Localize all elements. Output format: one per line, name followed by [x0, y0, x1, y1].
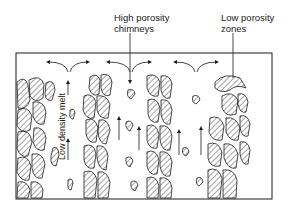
grain-column-1: [17, 78, 59, 198]
grain-column-4: [208, 76, 250, 198]
label-low-porosity-line1: Low porosity: [221, 12, 274, 23]
label-high-porosity-line2: chimneys: [114, 23, 169, 34]
grain-column-3: [147, 75, 172, 198]
grain-column-2: [83, 74, 112, 198]
label-low-porosity-line2: zones: [221, 23, 274, 34]
label-low-density-melt: Low density melt: [57, 93, 67, 160]
label-high-porosity-line1: High porosity: [114, 12, 169, 23]
label-high-porosity: High porosity chimneys: [114, 12, 169, 34]
flow-arrows-top: [48, 62, 217, 72]
label-low-porosity: Low porosity zones: [221, 12, 274, 34]
